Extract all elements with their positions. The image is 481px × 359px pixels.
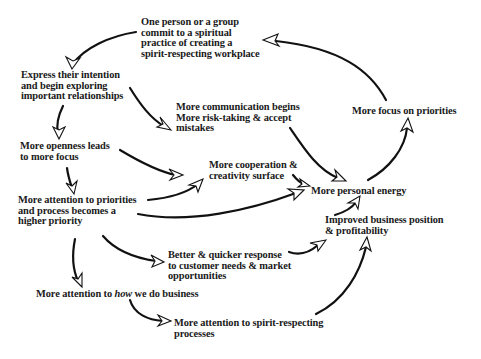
node-text-line: spirit-respecting workplace xyxy=(141,49,260,60)
arrow-response-to-business xyxy=(289,240,326,254)
arrow-openness-to-cooperation xyxy=(120,150,183,180)
node-text-line: More attention to priorities xyxy=(18,195,137,206)
node-text-part: we do business xyxy=(132,288,198,299)
node-text-line: to more focus xyxy=(20,152,110,163)
node-text-line: & profitability xyxy=(325,226,443,237)
node-text-part: More attention to xyxy=(36,288,115,299)
node-more-focus-priorities: More focus on priorities xyxy=(352,106,456,117)
node-text-line: More communication begins xyxy=(176,102,300,113)
arrow-energy-to-focus xyxy=(368,118,413,180)
node-text-line: More personal energy xyxy=(311,186,406,197)
node-text-line: One person or a group xyxy=(141,17,260,28)
node-text-line: More focus on priorities xyxy=(352,106,456,117)
arrow-commit-to-express xyxy=(66,32,136,69)
node-text-line: More attention to how we do business xyxy=(36,289,198,300)
node-commit-spiritual-practice: One person or a group commit to a spirit… xyxy=(141,17,260,59)
arrow-how-to-spirit xyxy=(130,300,171,326)
node-text-emphasis: how xyxy=(115,288,133,299)
node-more-openness: More openness leads to more focus xyxy=(20,141,110,162)
arrow-business-to-energy xyxy=(335,196,360,215)
node-text-line: More openness leads xyxy=(20,141,110,152)
arrow-attention-to-cooperation xyxy=(148,179,203,200)
node-attention-to-priorities: More attention to priorities and process… xyxy=(18,195,137,227)
node-attention-how-business: More attention to how we do business xyxy=(36,289,198,300)
node-improved-business-position: Improved business position & profitabili… xyxy=(325,215,443,236)
node-text-line: mistakes xyxy=(176,123,300,134)
node-text-line: higher priority xyxy=(18,216,137,227)
node-text-line: creativity surface xyxy=(209,171,298,182)
node-spirit-respecting-processes: More attention to spirit-respecting proc… xyxy=(174,318,323,339)
arrow-focus-to-commit xyxy=(263,34,386,100)
node-more-cooperation: More cooperation & creativity surface xyxy=(209,160,298,181)
arrow-attention-to-response xyxy=(103,236,164,267)
arrow-attention-to-energy xyxy=(138,189,304,217)
arrow-openness-to-attention xyxy=(66,168,77,194)
arrow-spirit-to-business xyxy=(316,237,371,314)
node-text-line: Better & quicker response xyxy=(168,250,291,261)
arrow-attention-to-how xyxy=(72,239,82,287)
node-text-line: processes xyxy=(174,329,323,340)
node-text-line: Improved business position xyxy=(325,215,443,226)
node-express-intention: Express their intention and begin explor… xyxy=(21,70,123,102)
arrow-communication-to-energy xyxy=(290,128,346,181)
arrow-express-to-openness xyxy=(53,106,65,139)
node-text-line: More attention to spirit-respecting xyxy=(174,318,323,329)
node-better-quicker-response: Better & quicker response to customer ne… xyxy=(168,250,291,282)
node-text-line: important relationships xyxy=(21,91,123,102)
node-text-line: More cooperation & xyxy=(209,160,298,171)
node-text-line: Express their intention xyxy=(21,70,123,81)
node-more-communication: More communication begins More risk-taki… xyxy=(176,102,300,134)
cycle-diagram: One person or a group commit to a spirit… xyxy=(0,0,481,359)
node-more-personal-energy: More personal energy xyxy=(311,186,406,197)
arrow-express-to-communication xyxy=(130,88,171,130)
node-text-line: opportunities xyxy=(168,271,291,282)
